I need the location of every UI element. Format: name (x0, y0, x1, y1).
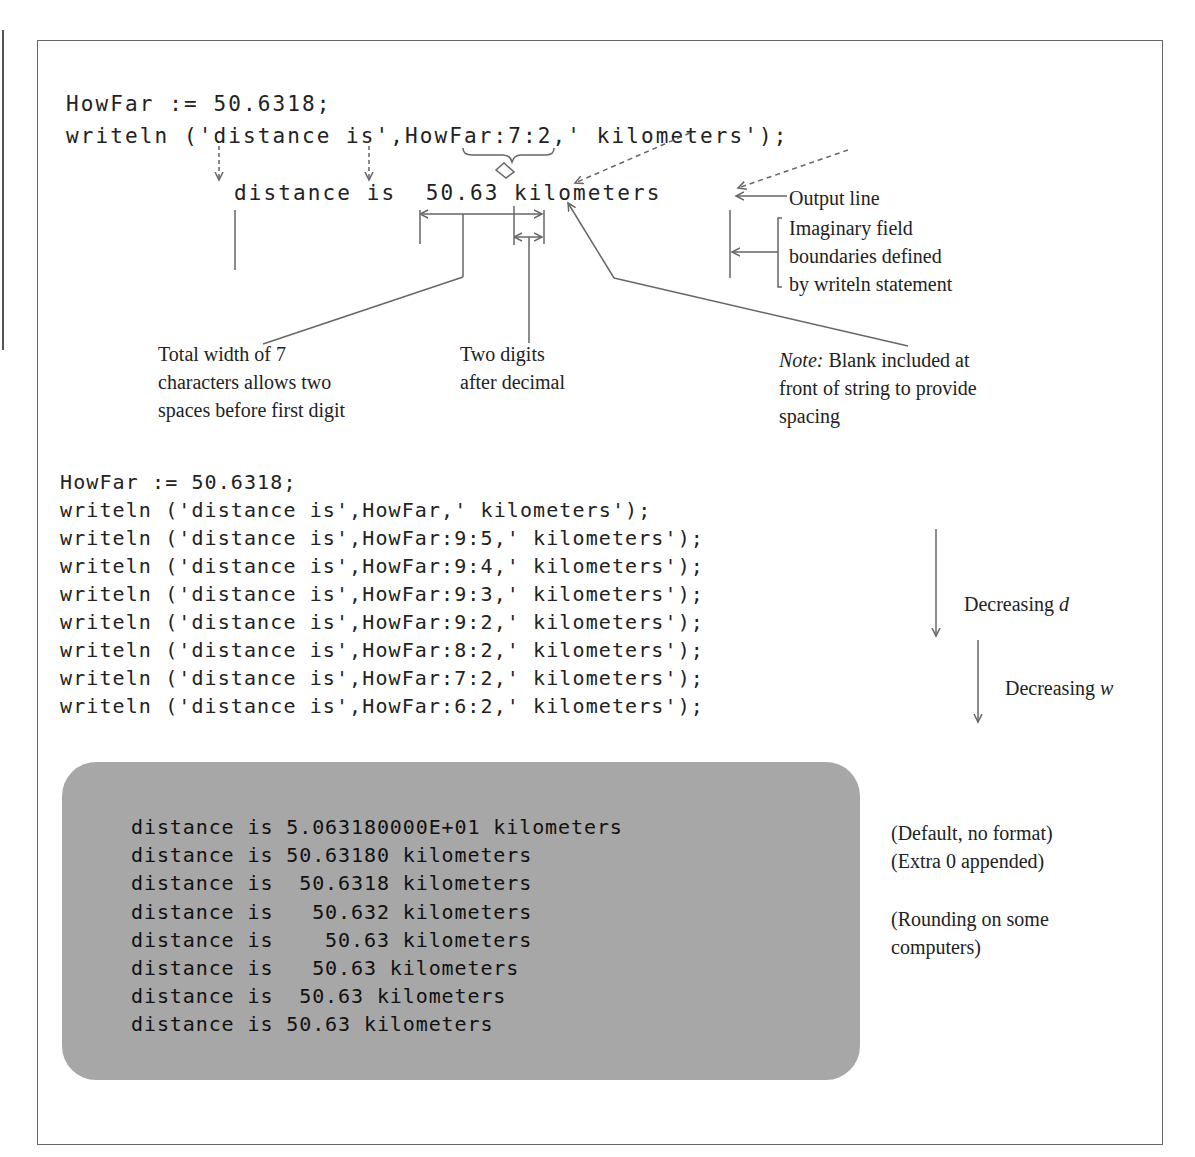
two-digits-label: Two digits after decimal (460, 340, 565, 396)
decreasing-w-label: Decreasing w (1005, 674, 1113, 702)
blank-note-label: Note: Blank included at front of string … (779, 346, 977, 430)
screen-output-line: distance is 50.63 kilometers (131, 1012, 493, 1036)
code-line: writeln ('distance is',HowFar:9:5,' kilo… (60, 526, 704, 550)
screen-output-line: distance is 50.63 kilometers (131, 956, 519, 980)
screen-output-line: distance is 50.63180 kilometers (131, 843, 532, 867)
output-line-label: Output line (789, 184, 880, 212)
code-line: writeln ('distance is',HowFar:6:2,' kilo… (60, 694, 704, 718)
rounding-note: (Rounding on some computers) (891, 905, 1049, 961)
code-line: writeln ('distance is',HowFar,' kilomete… (60, 498, 651, 522)
decreasing-d-label: Decreasing d (964, 590, 1069, 618)
default-format-note: (Default, no format) (891, 819, 1053, 847)
code-line: writeln ('distance is',HowFar:9:2,' kilo… (60, 610, 704, 634)
screen-output-line: distance is 5.063180000E+01 kilometers (131, 815, 623, 839)
screen-output-line: distance is 50.632 kilometers (131, 900, 532, 924)
screen-output-line: distance is 50.6318 kilometers (131, 871, 532, 895)
code-line: writeln ('distance is',HowFar:7:2,' kilo… (60, 666, 704, 690)
code-line: writeln ('distance is',HowFar:9:4,' kilo… (60, 554, 704, 578)
code-line: writeln ('distance is',HowFar:8:2,' kilo… (60, 638, 704, 662)
extra-zero-note: (Extra 0 appended) (891, 847, 1044, 875)
field-boundaries-label: Imaginary field boundaries defined by wr… (789, 214, 952, 298)
screen-output-line: distance is 50.63 kilometers (131, 928, 532, 952)
total-width-label: Total width of 7 characters allows two s… (158, 340, 345, 424)
code-line: HowFar := 50.6318; (60, 470, 297, 494)
code-line: writeln ('distance is',HowFar:9:3,' kilo… (60, 582, 704, 606)
screen-output-line: distance is 50.63 kilometers (131, 984, 506, 1008)
